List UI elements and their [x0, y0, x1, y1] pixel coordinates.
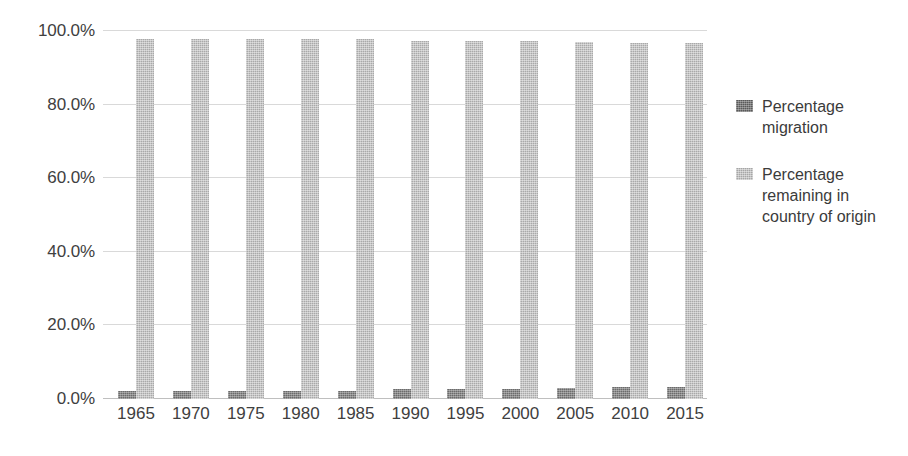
chart-legend: Percentage migration Percentage remainin…	[736, 96, 901, 253]
bar-remaining[interactable]	[465, 41, 483, 399]
bar-remaining[interactable]	[685, 43, 703, 399]
bar-remaining[interactable]	[356, 39, 374, 399]
bar-migration[interactable]	[557, 388, 575, 399]
bar-remaining[interactable]	[136, 39, 154, 399]
x-axis: 1965197019751980198519901995200020052010…	[103, 404, 707, 432]
legend-label-migration: Percentage migration	[762, 96, 901, 138]
plot-area	[103, 31, 707, 399]
y-axis-tick-label: 60.0%	[9, 168, 95, 188]
bar-migration[interactable]	[502, 389, 520, 399]
y-axis-tick-label: 100.0%	[9, 21, 95, 41]
y-axis-tick-label: 40.0%	[9, 242, 95, 262]
bar-group	[667, 31, 703, 399]
bar-migration[interactable]	[612, 387, 630, 399]
bar-migration[interactable]	[667, 387, 685, 399]
y-axis-tick-label: 20.0%	[9, 315, 95, 335]
y-axis-tick-label: 0.0%	[9, 389, 95, 409]
bar-migration[interactable]	[228, 391, 246, 399]
bar-group	[612, 31, 648, 399]
bar-group	[283, 31, 319, 399]
bar-remaining[interactable]	[246, 39, 264, 399]
legend-swatch-migration-icon	[736, 100, 753, 112]
bar-migration[interactable]	[447, 389, 465, 399]
bar-group	[173, 31, 209, 399]
y-axis: 0.0%20.0%40.0%60.0%80.0%100.0%	[0, 31, 95, 399]
bar-group	[393, 31, 429, 399]
y-axis-tick-label: 80.0%	[9, 95, 95, 115]
bar-group	[557, 31, 593, 399]
bar-group	[118, 31, 154, 399]
bar-migration[interactable]	[338, 391, 356, 399]
bar-group	[447, 31, 483, 399]
legend-label-remaining: Percentage remaining in country of origi…	[762, 164, 901, 227]
bar-groups	[103, 31, 707, 399]
bar-remaining[interactable]	[301, 39, 319, 399]
bar-migration[interactable]	[173, 391, 191, 399]
bar-remaining[interactable]	[191, 39, 209, 399]
bar-migration[interactable]	[393, 389, 411, 399]
bar-remaining[interactable]	[411, 41, 429, 399]
bar-chart: 0.0%20.0%40.0%60.0%80.0%100.0% 196519701…	[0, 0, 908, 456]
bar-remaining[interactable]	[520, 41, 538, 399]
legend-item-migration[interactable]: Percentage migration	[736, 96, 901, 138]
x-axis-tick-label: 2015	[650, 404, 720, 424]
legend-item-remaining[interactable]: Percentage remaining in country of origi…	[736, 164, 901, 227]
bar-group	[338, 31, 374, 399]
bar-remaining[interactable]	[575, 42, 593, 399]
bar-migration[interactable]	[118, 391, 136, 399]
bar-migration[interactable]	[283, 391, 301, 399]
bar-remaining[interactable]	[630, 43, 648, 399]
bar-group	[228, 31, 264, 399]
bar-group	[502, 31, 538, 399]
legend-swatch-remaining-icon	[736, 168, 753, 180]
